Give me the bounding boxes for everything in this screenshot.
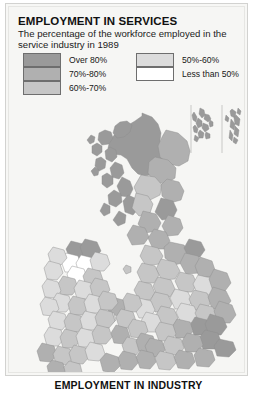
legend-swatch-50-60 [136,53,174,67]
figure-caption: EMPLOYMENT IN INDUSTRY [0,379,257,391]
map-legend: Over 80% 70%-80% 60%-70% 50%-60% [18,53,244,97]
legend-swatch-60-70 [23,81,61,95]
legend-label: 50%-60% [182,54,219,66]
map-card-inner: EMPLOYMENT IN SERVICES The percentage of… [8,6,245,373]
map-figure: EMPLOYMENT IN SERVICES The percentage of… [0,0,257,397]
inset-orkney [191,105,213,153]
legend-label: Over 80% [69,54,107,66]
legend-label: Less than 50% [182,68,239,80]
legend-swatch-70-80 [23,67,61,81]
inset-shetland [222,105,241,153]
map-subtitle: The percentage of the workforce employed… [18,29,233,51]
legend-swatch-under-50 [136,67,174,81]
region-isle-of-man [123,265,131,274]
legend-label: 70%-80% [69,68,106,80]
map-title: EMPLOYMENT IN SERVICES [18,15,177,27]
choropleth-map [9,99,245,373]
map-card: EMPLOYMENT IN SERVICES The percentage of… [5,3,248,376]
legend-swatch-over-80 [23,53,61,67]
map-svg [9,99,245,373]
legend-label: 60%-70% [69,82,106,94]
